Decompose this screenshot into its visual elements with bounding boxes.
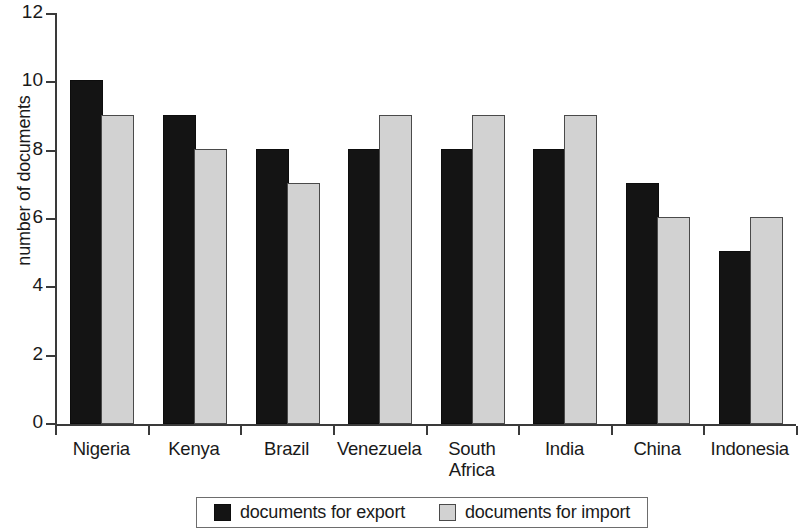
y-axis-tick-mark: [46, 150, 55, 152]
x-axis-category-label-line: India: [518, 438, 611, 459]
y-axis-tick-mark: [46, 81, 55, 83]
x-axis-category-label: Kenya: [148, 438, 241, 459]
bar-group: [148, 14, 241, 424]
bar-group: [426, 14, 519, 424]
bar-chart-figure: number of documents 024681012 NigeriaKen…: [0, 0, 803, 531]
y-axis-tick-label: 0: [32, 411, 43, 433]
x-axis-category-label-line: Venezuela: [333, 438, 426, 459]
bar-documents-for-export: [163, 115, 196, 425]
bar-documents-for-import: [194, 149, 227, 424]
legend-entry: documents for import: [439, 502, 630, 523]
chart-legend: documents for exportdocuments for import: [196, 497, 648, 528]
plot-area: [55, 14, 796, 424]
x-axis-tick-mark: [703, 426, 705, 435]
bar-documents-for-export: [626, 183, 659, 424]
y-axis-tick-label: 8: [32, 138, 43, 160]
legend-entry: documents for export: [214, 502, 405, 523]
x-axis-category-label-line: China: [611, 438, 704, 459]
bar-group: [611, 14, 704, 424]
bar-documents-for-export: [441, 149, 474, 424]
x-axis-category-label: China: [611, 438, 704, 459]
bar-documents-for-export: [70, 80, 103, 424]
bar-documents-for-export: [348, 149, 381, 424]
x-axis-category-label: Nigeria: [55, 438, 148, 459]
y-axis-tick-label: 10: [22, 69, 43, 91]
x-axis-category-label-line: Africa: [426, 459, 519, 480]
x-axis-category-label: Indonesia: [703, 438, 796, 459]
y-axis-tick-label: 4: [32, 274, 43, 296]
x-axis-tick-mark: [426, 426, 428, 435]
y-axis-tick-label: 12: [22, 1, 43, 23]
bar-documents-for-import: [287, 183, 320, 424]
bar-group: [333, 14, 426, 424]
x-axis-category-label: India: [518, 438, 611, 459]
bar-documents-for-import: [472, 115, 505, 425]
x-axis-category-label: SouthAfrica: [426, 438, 519, 480]
x-axis-tick-mark: [55, 426, 57, 435]
bar-documents-for-import: [101, 115, 134, 425]
bar-documents-for-export: [533, 149, 566, 424]
bar-group: [703, 14, 796, 424]
y-axis-tick-mark: [46, 423, 55, 425]
bar-documents-for-export: [719, 251, 752, 424]
black-square-icon: [214, 504, 231, 521]
x-axis-tick-mark: [796, 426, 798, 435]
bar-documents-for-import: [750, 217, 783, 424]
x-axis-category-label: Venezuela: [333, 438, 426, 459]
x-axis-tick-mark: [148, 426, 150, 435]
y-axis-tick-mark: [46, 286, 55, 288]
bar-documents-for-import: [564, 115, 597, 425]
y-axis-title: number of documents: [14, 71, 35, 291]
y-axis-tick-label: 2: [32, 343, 43, 365]
x-axis-category-label: Brazil: [240, 438, 333, 459]
y-axis-tick-mark: [46, 218, 55, 220]
x-axis-tick-mark: [240, 426, 242, 435]
x-axis-tick-mark: [518, 426, 520, 435]
bar-documents-for-export: [256, 149, 289, 424]
bar-documents-for-import: [379, 115, 412, 425]
y-axis-tick-mark: [46, 13, 55, 15]
x-axis-category-label-line: Indonesia: [703, 438, 796, 459]
y-axis-tick-label: 6: [32, 206, 43, 228]
y-axis-tick-mark: [46, 355, 55, 357]
x-axis-category-label-line: Brazil: [240, 438, 333, 459]
legend-label: documents for import: [465, 502, 630, 523]
bar-group: [518, 14, 611, 424]
x-axis-tick-mark: [611, 426, 613, 435]
x-axis-category-label-line: Nigeria: [55, 438, 148, 459]
bar-documents-for-import: [657, 217, 690, 424]
x-axis-category-label-line: Kenya: [148, 438, 241, 459]
bar-group: [55, 14, 148, 424]
x-axis-tick-mark: [333, 426, 335, 435]
x-axis-category-label-line: South: [426, 438, 519, 459]
legend-label: documents for export: [240, 502, 405, 523]
gray-square-icon: [439, 504, 456, 521]
bar-group: [240, 14, 333, 424]
